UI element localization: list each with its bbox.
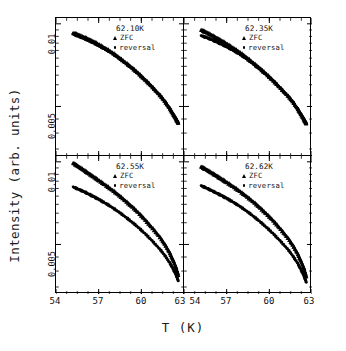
x-axis-title: T (K) <box>55 320 311 335</box>
triangle-marker-icon <box>242 36 246 40</box>
panel-legend: 62.55K ZFC reversal <box>113 162 179 190</box>
legend-label-reversal: reversal <box>248 181 284 190</box>
legend-label-zfc: ZFC <box>120 171 134 180</box>
x-tick-label: 63 <box>175 296 186 306</box>
panel-temperature-label: 62.55K <box>116 162 179 171</box>
legend-label-reversal: reversal <box>119 43 155 52</box>
dot-marker-icon <box>243 46 246 49</box>
legend-entry-reversal: reversal <box>242 181 308 190</box>
legend-label-zfc: ZFC <box>249 33 263 42</box>
x-tick-label: 60 <box>136 296 147 306</box>
panel-62-62: 62.62K ZFC reversal <box>184 156 312 294</box>
panel-temperature-label: 62.10K <box>116 24 179 33</box>
legend-entry-reversal: reversal <box>242 43 308 52</box>
legend-entry-zfc: ZFC <box>113 33 179 42</box>
figure-root: Intensity (arb. units) T (K) 0.01 0.005 … <box>0 0 346 351</box>
legend-entry-reversal: reversal <box>113 181 179 190</box>
x-tick-label: 57 <box>221 296 232 306</box>
legend-entry-zfc: ZFC <box>113 171 179 180</box>
panel-62-55: 62.55K ZFC reversal <box>56 156 184 294</box>
dot-marker-icon <box>114 46 117 49</box>
triangle-marker-icon <box>113 174 117 178</box>
legend-label-zfc: ZFC <box>120 33 134 42</box>
x-tick-label: 54 <box>190 296 201 306</box>
panel-legend: 62.62K ZFC reversal <box>242 162 308 190</box>
panel-legend: 62.35K ZFC reversal <box>242 24 308 52</box>
x-tick-label: 54 <box>50 296 61 306</box>
x-tick-label: 63 <box>304 296 315 306</box>
triangle-marker-icon <box>113 36 117 40</box>
dot-marker-icon <box>114 184 117 187</box>
plot-grid: 62.10K ZFC reversal 62.35K ZFC <box>55 17 311 293</box>
legend-label-zfc: ZFC <box>249 171 263 180</box>
panel-62-35: 62.35K ZFC reversal <box>184 18 312 156</box>
legend-entry-zfc: ZFC <box>242 171 308 180</box>
panel-temperature-label: 62.35K <box>245 24 308 33</box>
x-tick-label: 57 <box>93 296 104 306</box>
legend-label-reversal: reversal <box>248 43 284 52</box>
legend-label-reversal: reversal <box>119 181 155 190</box>
panel-legend: 62.10K ZFC reversal <box>113 24 179 52</box>
dot-marker-icon <box>243 184 246 187</box>
panel-temperature-label: 62.62K <box>245 162 308 171</box>
triangle-marker-icon <box>242 174 246 178</box>
x-tick-labels: 54 57 60 63 54 57 60 63 <box>0 296 346 312</box>
panel-62-10: 62.10K ZFC reversal <box>56 18 184 156</box>
x-tick-label: 60 <box>264 296 275 306</box>
legend-entry-zfc: ZFC <box>242 33 308 42</box>
legend-entry-reversal: reversal <box>113 43 179 52</box>
